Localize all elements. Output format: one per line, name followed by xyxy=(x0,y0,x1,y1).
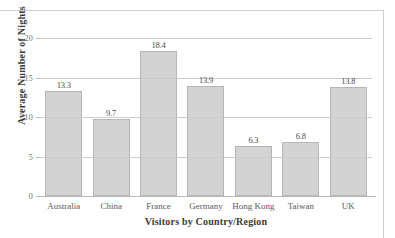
bar-slot-uk xyxy=(325,38,372,196)
bar-series xyxy=(40,38,372,196)
x-tick-label-taiwan: Taiwan xyxy=(277,201,324,211)
bar-slot-hong-kong xyxy=(230,38,277,196)
bar-china[interactable] xyxy=(93,119,130,196)
y-tick-label-0: 0 xyxy=(29,192,33,201)
bar-chart: Average Number of Nights 0510152013.39.7… xyxy=(0,10,383,238)
x-axis-line xyxy=(36,196,376,197)
x-tick-label-australia: Australia xyxy=(40,201,87,211)
x-tick-label-uk: UK xyxy=(325,201,372,211)
y-axis-title: Average Number of Nights xyxy=(16,0,27,141)
x-tick-label-france: France xyxy=(135,201,182,211)
bar-slot-australia xyxy=(40,38,87,196)
bar-slot-germany xyxy=(182,38,229,196)
bar-uk[interactable] xyxy=(330,87,367,196)
bar-slot-taiwan xyxy=(277,38,324,196)
x-tick-label-china: China xyxy=(87,201,134,211)
bar-germany[interactable] xyxy=(187,86,224,196)
page-footer-caption xyxy=(0,229,383,238)
bar-france[interactable] xyxy=(140,51,177,196)
bar-hong-kong[interactable] xyxy=(235,146,272,196)
x-axis-title: Visitors by Country/Region xyxy=(40,216,372,227)
y-tick-label-5: 5 xyxy=(29,152,33,161)
plot-area: 0510152013.39.718.413.96.36.813.8 xyxy=(40,38,372,196)
page-canvas: Average Number of Nights 0510152013.39.7… xyxy=(0,0,395,238)
x-tick-label-hong-kong: Hong Kong xyxy=(230,201,277,211)
bar-australia[interactable] xyxy=(45,91,82,196)
bar-taiwan[interactable] xyxy=(282,142,319,196)
x-tick-label-germany: Germany xyxy=(182,201,229,211)
page-frame-right-rule xyxy=(383,10,384,238)
bar-slot-france xyxy=(135,38,182,196)
bar-slot-china xyxy=(87,38,134,196)
